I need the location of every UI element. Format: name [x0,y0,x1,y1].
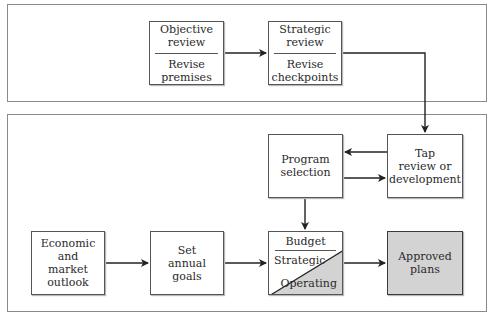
budget-operating-label: Operating [281,277,337,290]
divider [275,250,336,251]
revise-checkpoints-label: Revise checkpoints [269,58,341,84]
strategic-review-box: Strategic review Revise checkpoints [268,21,342,85]
divider [155,53,218,54]
approved-plans-label: Approved plans [398,250,452,276]
objective-review-label: Objective review [150,23,223,49]
strategic-review-label: Strategic review [269,23,341,49]
economic-outlook-label: Economic and market outlook [32,237,104,289]
annual-goals-label: Set annual goals [168,244,206,283]
tap-review-box: Tap review or development [387,134,463,198]
divider [274,53,336,54]
annual-goals-box: Set annual goals [150,231,224,295]
budget-title: Budget [269,235,342,248]
economic-outlook-box: Economic and market outlook [31,231,105,295]
program-selection-label: Program selection [281,153,331,179]
program-selection-box: Program selection [268,134,343,198]
budget-box: Budget Strategic Operating [268,231,343,295]
budget-strategic-label: Strategic [274,254,325,267]
revise-premises-label: Revise premises [150,58,223,84]
approved-plans-box: Approved plans [387,231,463,295]
objective-review-box: Objective review Revise premises [149,21,224,85]
tap-review-label: Tap review or development [389,147,461,186]
